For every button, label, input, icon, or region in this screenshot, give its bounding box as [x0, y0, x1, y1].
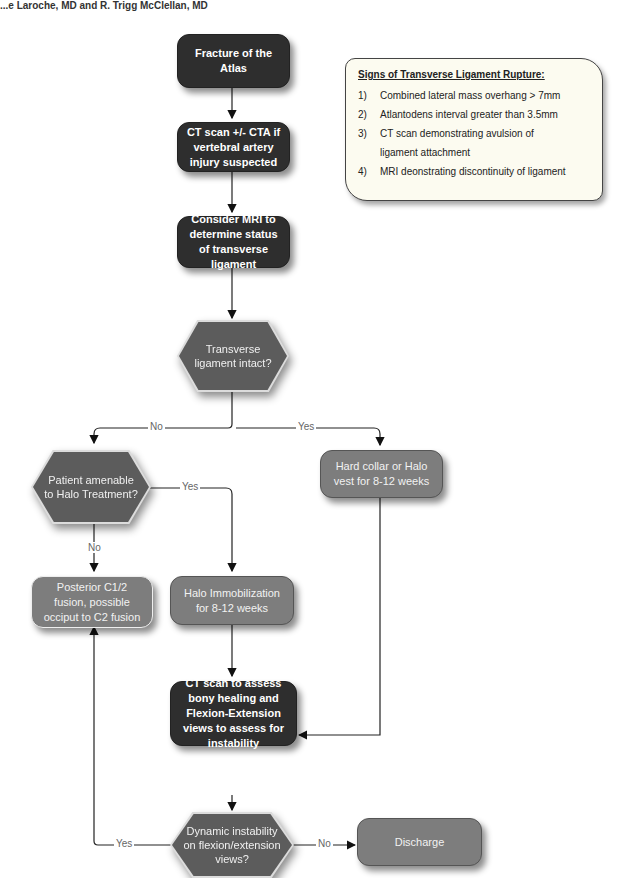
- note-item: 1)Combined lateral mass overhang > 7mm: [358, 86, 590, 105]
- node-ct-scan-cta: CT scan +/- CTA if vertebral artery inju…: [177, 122, 290, 172]
- edge-label-instability-no: No: [316, 838, 333, 849]
- edge-label-instability-yes: Yes: [114, 838, 134, 849]
- node-hard-collar: Hard collar or Halo vest for 8-12 weeks: [320, 450, 443, 498]
- node-posterior-fusion: Posterior C1/2 fusion, possible occiput …: [31, 576, 153, 628]
- note-item: 4)MRI deonstrating discontinuity of liga…: [358, 162, 590, 181]
- edge-label-ligament-no: No: [148, 421, 165, 432]
- node-fracture-of-atlas: Fracture of the Atlas: [177, 34, 290, 88]
- signs-of-rupture-note: Signs of Transverse Ligament Rupture: 1)…: [345, 58, 603, 201]
- decision-halo-amenable: Patient amenable to Halo Treatment?: [31, 450, 151, 524]
- node-discharge: Discharge: [357, 818, 482, 866]
- decision-dynamic-instability: Dynamic instability on flexion/extension…: [170, 812, 294, 878]
- note-item: 3)CT scan demonstrating avulsion of: [358, 124, 590, 143]
- edge-label-halo-no: No: [86, 542, 103, 553]
- note-item: 2)Atlantodens interval greater than 3.5m…: [358, 105, 590, 124]
- decision-ligament-intact: Transverse ligament intact?: [177, 320, 289, 392]
- node-ct-assess-healing: CT scan to assess bony healing and Flexi…: [170, 681, 297, 746]
- note-item: ligament attachment: [358, 143, 590, 162]
- node-consider-mri: Consider MRI to determine status of tran…: [177, 216, 290, 268]
- edge-label-ligament-yes: Yes: [296, 421, 316, 432]
- edge-label-halo-yes: Yes: [180, 481, 200, 492]
- note-title: Signs of Transverse Ligament Rupture:: [358, 69, 590, 80]
- node-halo-immobilization: Halo Immobilization for 8-12 weeks: [170, 576, 294, 625]
